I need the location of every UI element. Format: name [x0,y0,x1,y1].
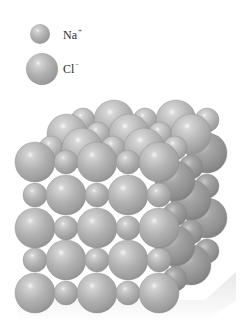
cl-ion-sphere [77,142,117,182]
na-ion-sphere [54,281,78,305]
legend-label-na: Na+ [63,29,82,41]
na-ion-sphere [116,216,140,240]
na-ion-sphere [116,281,140,305]
na-ion-sphere [85,248,109,272]
legend-na-charge: + [78,27,82,35]
lattice-canvas [0,0,248,330]
na-ion-sphere [116,150,140,174]
legend-na-symbol: Na [63,28,77,42]
legend-label-cl: Cl− [63,63,79,75]
cl-ion-sphere [77,273,117,313]
na-ion-sphere [54,150,78,174]
cl-ion-sphere [77,208,117,248]
na-ion-sphere [23,248,47,272]
legend-na-sphere-icon [30,24,50,44]
legend-cl-symbol: Cl [63,62,74,76]
cl-ion-sphere [46,175,86,215]
ion-spheres [15,100,227,313]
na-ion-sphere [147,183,171,207]
na-ion-sphere [85,183,109,207]
cl-ion-sphere [139,208,179,248]
na-ion-sphere [23,183,47,207]
legend-cl-charge: − [75,61,79,69]
na-ion-sphere [147,248,171,272]
legend-cl-sphere-icon [26,53,58,85]
cl-ion-sphere [139,142,179,182]
cl-ion-sphere [108,175,148,215]
cl-ion-sphere [139,273,179,313]
cl-ion-sphere [15,142,55,182]
cl-ion-sphere [15,208,55,248]
nacl-diagram: Na+ Cl− [0,0,248,330]
cl-ion-sphere [15,273,55,313]
na-ion-sphere [54,216,78,240]
legend [26,24,58,85]
cl-ion-sphere [46,240,86,280]
cl-ion-sphere [108,240,148,280]
